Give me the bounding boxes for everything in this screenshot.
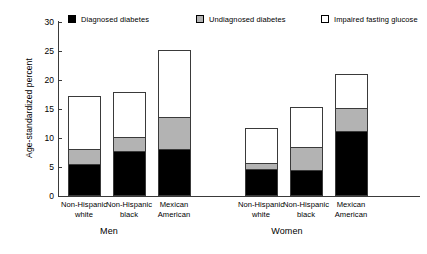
y-axis-tick-label: 25 [30,47,54,56]
x-axis-group-label-women: Women [212,226,362,236]
y-axis-tick [58,80,62,81]
bar-segment-undiagnosed-diabetes [291,147,322,170]
bar-segment-undiagnosed-diabetes [114,137,145,152]
bar-women-mexican-american [335,74,368,197]
y-axis-tick-label: 10 [30,134,54,143]
legend-item-undiagnosed-diabetes: Undiagnosed diabetes [196,12,286,26]
bar-segment-diagnosed-diabetes [336,132,367,195]
open-white-square-icon [321,15,329,23]
category-label-line1: Mexican [320,200,382,210]
legend-item-impaired-fasting-glucose: Impaired fasting glucose [321,12,418,26]
y-axis-tick-label: 0 [30,192,54,201]
filled-black-square-icon [68,15,76,23]
y-axis-tick-label: 20 [30,76,54,85]
filled-gray-square-icon [196,15,204,23]
bar-segment-undiagnosed-diabetes [246,163,277,170]
bar-segment-undiagnosed-diabetes [69,149,100,166]
bar-men-mexican-american [158,50,191,196]
bar-segment-diagnosed-diabetes [69,165,100,195]
bar-men-non-hispanic-white [68,96,101,196]
legend-label-diagnosed-diabetes: Diagnosed diabetes [81,15,149,24]
y-axis-tick-label: 30 [30,18,54,27]
chart-legend: Diagnosed diabetes Undiagnosed diabetes … [68,12,420,26]
bar-men-non-hispanic-black [113,92,146,196]
legend-label-impaired-fasting-glucose: Impaired fasting glucose [334,15,418,24]
bar-segment-diagnosed-diabetes [246,170,277,195]
x-axis-group-label-men: Men [34,226,184,236]
y-axis-tick [58,51,62,52]
bar-segment-impaired-fasting-glucose [159,51,190,117]
chart-figure: Diagnosed diabetes Undiagnosed diabetes … [0,0,427,254]
bar-segment-impaired-fasting-glucose [336,75,367,108]
y-axis-tick [58,22,62,23]
y-axis-tick-label: 15 [30,105,54,114]
category-label-line2: American [320,210,382,220]
bar-segment-diagnosed-diabetes [114,152,145,195]
x-axis-category-label-women-mexican-american: Mexican American [320,200,382,220]
category-label-line2: American [143,210,205,220]
y-axis-tick-label: 5 [30,163,54,172]
bar-segment-impaired-fasting-glucose [246,129,277,162]
x-axis-line [58,196,420,197]
legend-item-diagnosed-diabetes: Diagnosed diabetes [68,12,149,26]
y-axis-tick [58,167,62,168]
category-label-line1: Mexican [143,200,205,210]
bar-women-non-hispanic-black [290,107,323,196]
bar-segment-impaired-fasting-glucose [69,97,100,149]
legend-label-undiagnosed-diabetes: Undiagnosed diabetes [209,15,286,24]
bar-segment-diagnosed-diabetes [291,171,322,196]
bar-segment-undiagnosed-diabetes [159,117,190,150]
y-axis-tick [58,109,62,110]
x-axis-category-label-men-mexican-american: Mexican American [143,200,205,220]
bar-women-non-hispanic-white [245,128,278,196]
y-axis-tick [58,138,62,139]
bar-segment-diagnosed-diabetes [159,150,190,195]
bar-segment-impaired-fasting-glucose [291,108,322,147]
bar-segment-impaired-fasting-glucose [114,93,145,136]
bar-segment-undiagnosed-diabetes [336,108,367,132]
